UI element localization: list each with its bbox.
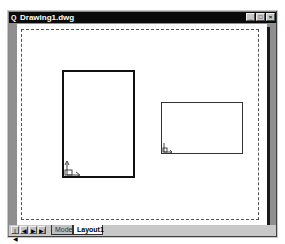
last-tab-button[interactable]: ▶| [38, 226, 46, 234]
paper-sheet [17, 24, 267, 226]
minimize-button[interactable]: _ [246, 13, 255, 21]
ucs-icon [64, 158, 82, 176]
viewport-1[interactable] [62, 70, 135, 178]
tab-layout1[interactable]: Layout1 [73, 225, 103, 235]
prev-tab-button[interactable]: ◀ [20, 226, 28, 234]
drawing-window: Q Drawing1.dwg _ □ × |◀ ◀ ▶ [7, 10, 278, 238]
viewport-2[interactable] [161, 102, 243, 154]
next-tab-button[interactable]: ▶ [29, 226, 37, 234]
layout-canvas[interactable] [9, 23, 276, 225]
app-icon: Q [11, 13, 19, 22]
window-title: Drawing1.dwg [20, 12, 74, 23]
maximize-button[interactable]: □ [256, 13, 265, 21]
layout-tab-bar: |◀ ◀ ▶ ▶| Model Layout1 [9, 225, 276, 236]
ucs-icon [162, 141, 174, 153]
title-bar[interactable]: Q Drawing1.dwg _ □ × [9, 12, 276, 23]
tab-model[interactable]: Model [51, 225, 73, 235]
first-tab-button[interactable]: |◀ [11, 226, 19, 234]
close-button[interactable]: × [266, 13, 275, 21]
